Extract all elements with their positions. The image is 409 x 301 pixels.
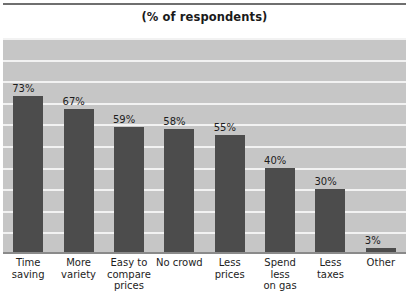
category-label: Morevariety bbox=[53, 257, 105, 280]
bar-value-label: 67% bbox=[63, 96, 107, 107]
bar bbox=[265, 168, 295, 254]
bar-value-label: 30% bbox=[314, 176, 358, 187]
chart-title: (% of respondents) bbox=[0, 10, 409, 24]
x-axis-line bbox=[3, 252, 406, 254]
bar-chart-figure: (% of respondents) 73%67%59%58%55%40%30%… bbox=[0, 0, 409, 301]
bar bbox=[164, 129, 194, 254]
category-label: Lessprices bbox=[204, 257, 256, 280]
category-label: Other bbox=[355, 257, 407, 269]
bar-value-label: 55% bbox=[214, 122, 258, 133]
bar-value-label: 58% bbox=[163, 116, 207, 127]
category-label: Timesaving bbox=[2, 257, 54, 280]
bar bbox=[114, 127, 144, 254]
category-label: No crowd bbox=[153, 257, 205, 269]
bar-value-label: 59% bbox=[113, 114, 157, 125]
bar bbox=[215, 135, 245, 254]
bar-value-label: 73% bbox=[12, 83, 56, 94]
bar bbox=[13, 96, 43, 254]
plot-area bbox=[3, 38, 406, 254]
category-label: Easy tocompareprices bbox=[103, 257, 155, 292]
top-divider-rule bbox=[3, 3, 406, 5]
bar-value-label: 3% bbox=[365, 235, 409, 246]
bar bbox=[315, 189, 345, 254]
gridline bbox=[3, 81, 406, 83]
gridline bbox=[3, 60, 406, 62]
category-label: Spendlesson gas bbox=[254, 257, 306, 292]
bar bbox=[64, 109, 94, 254]
bar-value-label: 40% bbox=[264, 155, 308, 166]
category-label: Lesstaxes bbox=[304, 257, 356, 280]
gridline bbox=[3, 38, 406, 40]
